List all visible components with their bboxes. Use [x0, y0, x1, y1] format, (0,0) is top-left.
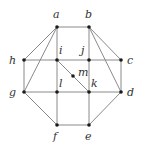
vertex-label-f: f: [52, 130, 59, 143]
nodes-group: [22, 25, 123, 127]
vertex-label-b: b: [85, 8, 92, 21]
vertex-j: [87, 58, 91, 62]
vertex-label-a: a: [53, 8, 60, 21]
vertex-m: [71, 74, 75, 78]
vertex-g: [22, 90, 26, 94]
vertex-b: [87, 25, 91, 29]
edge-i-m: [57, 60, 73, 76]
vertex-label-c: c: [127, 54, 133, 67]
vertex-label-m: m: [78, 66, 88, 79]
vertex-a: [55, 25, 59, 29]
edge-g-f: [24, 92, 57, 125]
vertex-k: [87, 90, 91, 94]
vertex-label-k: k: [91, 77, 98, 90]
vertex-label-j: j: [78, 44, 85, 57]
vertex-label-e: e: [85, 130, 92, 143]
vertex-h: [22, 58, 26, 62]
vertex-e: [87, 123, 91, 127]
vertex-l: [55, 90, 59, 94]
vertex-c: [119, 58, 123, 62]
edge-b-c: [89, 27, 121, 60]
edge-d-e: [89, 92, 121, 125]
vertex-d: [119, 90, 123, 94]
graph-diagram: abhijcmglkdfe: [0, 0, 142, 147]
vertex-label-d: d: [127, 86, 134, 99]
vertex-label-l: l: [59, 77, 63, 90]
vertex-label-h: h: [9, 54, 16, 67]
vertex-i: [55, 58, 59, 62]
edge-a-h: [24, 27, 57, 60]
vertex-label-i: i: [59, 44, 63, 57]
vertex-f: [55, 123, 59, 127]
vertex-label-g: g: [9, 86, 16, 99]
